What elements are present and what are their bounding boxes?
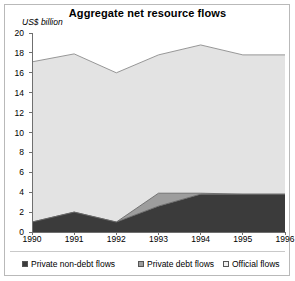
y-tick-label-14: 14: [6, 88, 24, 98]
legend-item-0[interactable]: Private non-debt flows: [22, 259, 115, 269]
x-tick-label-1991: 1991: [57, 234, 91, 244]
legend-swatch-icon-0: [22, 261, 28, 267]
legend-label-0: Private non-debt flows: [31, 259, 115, 269]
y-tick-label-18: 18: [6, 48, 24, 58]
x-tick-label-1996: 1996: [268, 234, 295, 244]
x-tick-label-1994: 1994: [184, 234, 218, 244]
chart-legend: Private non-debt flowsPrivate debt flows…: [10, 256, 285, 272]
x-tick-label-1993: 1993: [142, 234, 176, 244]
legend-item-1[interactable]: Private debt flows: [138, 259, 214, 269]
chart-figure: Aggregate net resource flows US$ billion…: [0, 0, 295, 281]
y-tick-label-20: 20: [6, 28, 24, 38]
legend-separator: [10, 251, 285, 252]
plot-area: 20181614121086420 1990199119921993199419…: [0, 0, 295, 281]
legend-swatch-icon-2: [223, 261, 229, 267]
x-tick-label-1992: 1992: [99, 234, 133, 244]
y-tick-label-8: 8: [6, 147, 24, 157]
x-tick-label-1995: 1995: [226, 234, 260, 244]
y-tick-label-16: 16: [6, 68, 24, 78]
legend-label-2: Official flows: [232, 259, 280, 269]
data-areas: [32, 45, 285, 232]
y-tick-label-6: 6: [6, 167, 24, 177]
x-tick-label-1990: 1990: [15, 234, 49, 244]
legend-item-2[interactable]: Official flows: [223, 259, 280, 269]
y-tick-label-12: 12: [6, 108, 24, 118]
y-tick-label-4: 4: [6, 187, 24, 197]
y-tick-label-2: 2: [6, 207, 24, 217]
legend-label-1: Private debt flows: [147, 259, 214, 269]
y-tick-label-10: 10: [6, 128, 24, 138]
legend-swatch-icon-1: [138, 261, 144, 267]
